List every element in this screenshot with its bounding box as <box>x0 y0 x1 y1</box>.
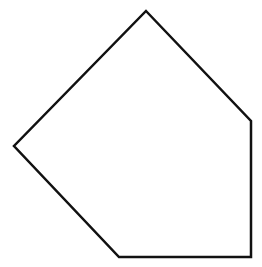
diagram-canvas <box>0 0 262 267</box>
pentagon-shape <box>14 11 251 257</box>
